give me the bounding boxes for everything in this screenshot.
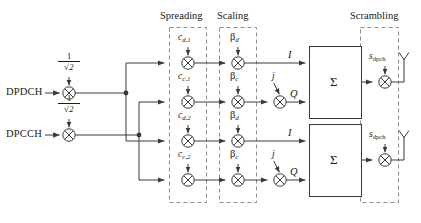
code-subscript: d,1: [182, 36, 191, 43]
scrambling-code-subscript: dpch: [373, 55, 386, 62]
beta-subscript: d: [235, 114, 239, 122]
row3-scaling-multiplier: [232, 174, 244, 186]
dpdch-gain-numerator: 1: [58, 52, 80, 61]
section-label-spreading: Spreading: [160, 11, 203, 22]
beta-subscript: d: [235, 36, 239, 44]
code-subscript: d,2: [182, 114, 191, 121]
row2-spreading-multiplier: [182, 135, 194, 147]
scrambler-2-multiplier: [379, 154, 391, 166]
imaginary-unit-label-row1: j: [272, 71, 275, 81]
radical-sign: √: [64, 104, 69, 114]
scaling-gain-label-row1: βc: [230, 71, 238, 82]
beta-subscript: c: [235, 153, 238, 161]
scrambler-1-multiplier: [379, 76, 391, 88]
scrambler-2-to-antenna-line: [391, 137, 404, 160]
row2-scaling-multiplier: [232, 135, 244, 147]
dpcch-radicand: 2: [69, 103, 74, 114]
radical-sign: √: [64, 62, 69, 72]
section-label-scrambling: Scrambling: [350, 11, 398, 22]
row1-spreading-multiplier: [182, 96, 194, 108]
spreading-code-label-row3: cc,2: [178, 150, 190, 160]
block-diagram-canvas: DPDCH DPCCH 1 √2 1 √2 Spreading Scaling …: [0, 0, 421, 223]
row1-scaling-multiplier: [232, 96, 244, 108]
dpcch-gain-fraction: 1 √2: [58, 94, 80, 114]
rail-label-row0: I: [288, 50, 292, 61]
antenna-1-icon-shape: [399, 53, 409, 60]
summer-2-symbol: Σ: [330, 153, 338, 166]
row1-j-drop: [274, 83, 280, 94]
summer-1-symbol: Σ: [330, 75, 338, 88]
scrambling-code-label-1: sdpch: [369, 52, 386, 62]
rail-label-row1: Q: [290, 89, 298, 100]
row0-spreading-multiplier: [182, 57, 194, 69]
spreading-code-label-row2: cd,2: [178, 111, 191, 121]
dpcch-gain-numerator: 1: [58, 94, 80, 103]
scrambling-code-label-2: sdpch: [369, 130, 386, 140]
section-label-scaling: Scaling: [217, 11, 249, 22]
dpdch-branch-to-row2: [126, 93, 164, 141]
beta-subscript: c: [235, 75, 238, 83]
scrambler-1-to-antenna-line: [391, 59, 404, 82]
scaling-gain-label-row2: βd: [230, 110, 239, 121]
input-label-dpdch: DPDCH: [6, 87, 43, 98]
rail-label-row3: Q: [290, 167, 298, 178]
code-subscript: c,1: [182, 75, 190, 82]
imaginary-unit-label-row3: j: [272, 149, 275, 159]
row3-spreading-multiplier: [182, 174, 194, 186]
rail-label-row2: I: [288, 128, 292, 139]
scaling-gain-label-row3: βc: [230, 149, 238, 160]
dpdch-branch-to-row0: [126, 63, 164, 93]
row3-j-multiplier: [274, 174, 286, 186]
scaling-gain-label-row0: βd: [230, 32, 239, 43]
dpcch-gain-multiplier: [63, 129, 75, 141]
dpcch-branch-to-row1: [139, 102, 164, 135]
dpdch-gain-fraction: 1 √2: [58, 52, 80, 72]
code-subscript: c,2: [182, 153, 190, 160]
dpcch-gain-denominator: √2: [58, 105, 80, 114]
row3-j-drop: [274, 161, 280, 172]
input-label-dpcch: DPCCH: [6, 129, 42, 140]
row0-scaling-multiplier: [232, 57, 244, 69]
dpdch-radicand: 2: [69, 61, 74, 72]
dpdch-gain-denominator: √2: [58, 63, 80, 72]
scrambling-code-subscript: dpch: [373, 133, 386, 140]
antenna-2-icon-shape: [399, 131, 409, 138]
row1-j-multiplier: [274, 96, 286, 108]
spreading-code-label-row0: cd,1: [178, 33, 191, 43]
spreading-code-label-row1: cc,1: [178, 72, 190, 82]
dpcch-branch-to-row3: [139, 135, 164, 180]
